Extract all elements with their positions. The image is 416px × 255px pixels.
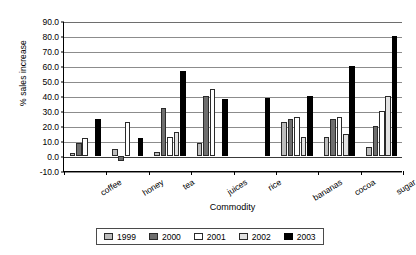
- x-axis-category-label: juices: [225, 177, 249, 197]
- bar-sugar-2000: [373, 126, 379, 156]
- bar-sugar-2001: [379, 111, 385, 156]
- y-axis-tick-label: 0.0: [13, 152, 59, 162]
- bar-sugar-2003: [392, 36, 398, 156]
- x-axis-category-label: sugar: [394, 177, 416, 197]
- bar-coffee-1999: [70, 153, 76, 156]
- bar-tea-2001: [167, 137, 173, 157]
- x-axis-tick-mark: [318, 171, 319, 175]
- bar-group: [64, 22, 106, 171]
- bar-group: [276, 22, 318, 171]
- legend-item-2002: 2002: [239, 232, 271, 242]
- legend-swatch-1999: [104, 233, 113, 240]
- bar-bananas-1999: [281, 122, 287, 157]
- bar-juices-2003: [222, 99, 228, 156]
- bar-coffee-2003: [95, 119, 101, 157]
- bar-tea-2002: [174, 132, 180, 156]
- x-axis-tick-mark: [403, 171, 404, 175]
- bar-rice-2003: [265, 98, 271, 157]
- bar-bananas-2003: [307, 96, 313, 156]
- bar-honey-2000: [118, 156, 124, 161]
- bar-chart: % sales increase 90.080.070.060.050.040.…: [0, 0, 416, 255]
- y-axis-tick-label: 90.0: [13, 17, 59, 27]
- legend-swatch-2003: [284, 233, 293, 240]
- legend-label-1999: 1999: [117, 232, 136, 242]
- x-axis-tick-mark: [149, 171, 150, 175]
- bar-cocoa-2001: [337, 117, 343, 156]
- legend-swatch-2001: [194, 233, 203, 240]
- y-axis-tick-label: 60.0: [13, 62, 59, 72]
- plot-area: 90.080.070.060.050.040.030.020.010.00.0-…: [63, 22, 402, 172]
- bar-group: [318, 22, 360, 171]
- bar-group: [361, 22, 403, 171]
- bar-bananas-2001: [294, 117, 300, 156]
- legend-item-2003: 2003: [284, 232, 316, 242]
- x-axis-tick-mark: [361, 171, 362, 175]
- x-axis-category-label: coffee: [98, 177, 123, 198]
- legend-swatch-2000: [149, 233, 158, 240]
- x-axis-category-label: cocoa: [352, 177, 377, 198]
- x-axis-category-label: honey: [140, 177, 165, 198]
- x-axis-category-label: tea: [181, 177, 196, 192]
- bar-cocoa-1999: [324, 137, 330, 157]
- legend-label-2001: 2001: [207, 232, 226, 242]
- x-axis-category-label: bananas: [311, 177, 344, 203]
- bar-tea-2003: [180, 71, 186, 157]
- x-axis-title: Commodity: [63, 202, 402, 212]
- legend-label-2000: 2000: [162, 232, 181, 242]
- y-axis-tick-label: 50.0: [13, 77, 59, 87]
- bar-sugar-1999: [366, 147, 372, 156]
- chart-legend: 19992000200120022003: [96, 228, 324, 245]
- bar-honey-2003: [138, 138, 144, 156]
- y-axis-tick-label: 80.0: [13, 32, 59, 42]
- bar-sugar-2002: [385, 96, 391, 156]
- bar-group: [106, 22, 148, 171]
- bar-honey-1999: [112, 149, 118, 157]
- bar-cocoa-2000: [330, 119, 336, 157]
- bar-group: [234, 22, 276, 171]
- y-axis-tick-label: 70.0: [13, 47, 59, 57]
- legend-label-2002: 2002: [252, 232, 271, 242]
- bar-honey-2001: [125, 122, 131, 157]
- y-axis-tick-label: 30.0: [13, 107, 59, 117]
- bar-cocoa-2002: [343, 134, 349, 157]
- bar-tea-2000: [161, 108, 167, 156]
- x-axis-tick-mark: [64, 171, 65, 175]
- x-axis-tick-mark: [106, 171, 107, 175]
- x-axis-tick-mark: [191, 171, 192, 175]
- legend-item-2000: 2000: [149, 232, 181, 242]
- y-axis-tick-label: 40.0: [13, 92, 59, 102]
- bar-bananas-2000: [288, 119, 294, 157]
- bar-tea-1999: [154, 152, 160, 157]
- y-axis-tick-label: -10.0: [13, 167, 59, 177]
- y-axis-tick-label: 10.0: [13, 137, 59, 147]
- bar-bananas-2002: [301, 137, 307, 157]
- bar-juices-2001: [210, 89, 216, 157]
- bar-juices-1999: [197, 143, 203, 157]
- bar-coffee-2000: [76, 143, 82, 157]
- bar-cocoa-2003: [349, 66, 355, 156]
- bar-group: [149, 22, 191, 171]
- bars-layer: [64, 22, 402, 171]
- x-axis-tick-mark: [276, 171, 277, 175]
- x-axis-category-label: rice: [266, 177, 283, 193]
- legend-item-2001: 2001: [194, 232, 226, 242]
- bar-group: [191, 22, 233, 171]
- legend-item-1999: 1999: [104, 232, 136, 242]
- legend-swatch-2002: [239, 233, 248, 240]
- y-axis-tick-label: 20.0: [13, 122, 59, 132]
- bar-juices-2000: [203, 96, 209, 156]
- bar-coffee-2001: [82, 138, 88, 156]
- x-axis-tick-mark: [234, 171, 235, 175]
- legend-label-2003: 2003: [297, 232, 316, 242]
